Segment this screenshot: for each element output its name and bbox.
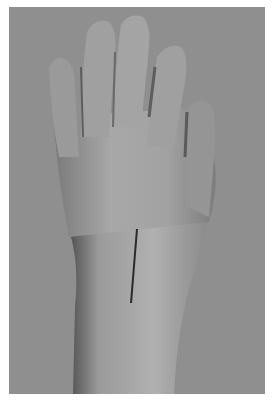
hand-photo (9, 7, 265, 394)
hand-illustration (9, 7, 265, 394)
